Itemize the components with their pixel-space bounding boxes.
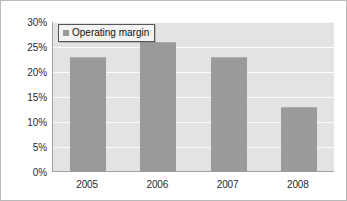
bar-slot xyxy=(194,22,264,172)
y-axis-tick-label: 25% xyxy=(27,42,47,53)
x-axis-tick-label: 2006 xyxy=(122,173,192,197)
plot-area: Operating margin xyxy=(52,22,334,172)
legend-label: Operating margin xyxy=(72,27,149,38)
bar-2008[interactable] xyxy=(281,107,317,172)
operating-margin-bar-chart: 30% 25% 20% 15% 10% 5% 0% xyxy=(0,0,347,201)
bar-slot xyxy=(264,22,334,172)
y-axis-tick-label: 5% xyxy=(33,142,47,153)
bar-2005[interactable] xyxy=(70,57,106,172)
y-axis-tick-label: 20% xyxy=(27,67,47,78)
bar-2006[interactable] xyxy=(140,42,176,172)
y-axis: 30% 25% 20% 15% 10% 5% 0% xyxy=(1,1,52,201)
bars-layer xyxy=(53,22,334,172)
chart-legend[interactable]: Operating margin xyxy=(58,24,155,42)
bar-slot xyxy=(123,22,193,172)
y-axis-tick-label: 10% xyxy=(27,117,47,128)
bar-2007[interactable] xyxy=(211,57,247,172)
y-axis-tick-label: 15% xyxy=(27,92,47,103)
x-axis: 2005 2006 2007 2008 xyxy=(52,173,333,197)
y-axis-tick-label: 30% xyxy=(27,17,47,28)
bar-slot xyxy=(53,22,123,172)
x-axis-tick-label: 2008 xyxy=(263,173,333,197)
legend-swatch-square-icon xyxy=(63,30,69,36)
x-axis-tick-label: 2005 xyxy=(52,173,122,197)
x-axis-tick-label: 2007 xyxy=(193,173,263,197)
y-axis-tick-label: 0% xyxy=(33,167,47,178)
